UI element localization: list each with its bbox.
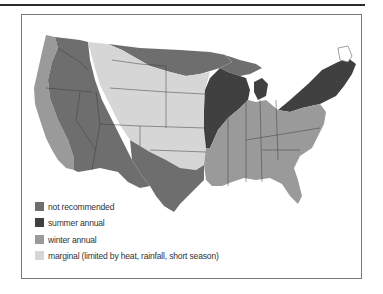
legend-item-not-recommended: not recommended <box>35 198 238 215</box>
legend-item-marginal: marginal (limited by heat, rainfall, sho… <box>35 248 238 265</box>
region-northeast-summer <box>278 58 356 112</box>
region-maine-marginal <box>338 46 352 62</box>
legend: not recommended summer annual winter ann… <box>35 198 238 264</box>
legend-label: winter annual <box>48 234 97 245</box>
legend-label: not recommended <box>48 201 114 212</box>
region-michigan-summer <box>254 78 268 100</box>
legend-label: marginal (limited by heat, rainfall, sho… <box>48 250 219 261</box>
legend-item-summer-annual: summer annual <box>35 215 238 232</box>
legend-item-winter-annual: winter annual <box>35 231 238 248</box>
swatch-marginal <box>35 251 44 260</box>
legend-label: summer annual <box>48 217 105 228</box>
swatch-winter-annual <box>35 235 44 244</box>
swatch-summer-annual <box>35 218 44 227</box>
swatch-not-recommended <box>35 202 44 211</box>
